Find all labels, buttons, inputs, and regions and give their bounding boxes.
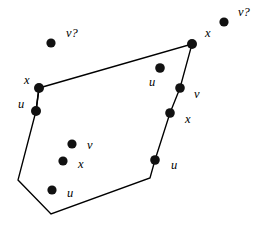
point-dot-p11[interactable]	[58, 156, 67, 165]
point-label-p8: x	[184, 112, 191, 126]
convex-region-outline	[18, 44, 192, 214]
point-dot-p2[interactable]	[219, 17, 228, 26]
point-dot-p7[interactable]	[175, 83, 185, 93]
point-dot-p10[interactable]	[67, 139, 76, 148]
point-dot-p3[interactable]	[187, 39, 197, 49]
point-label-p12: u	[67, 186, 73, 200]
point-dot-p12[interactable]	[47, 185, 56, 194]
point-dot-p9[interactable]	[150, 155, 160, 165]
polygon-group	[18, 44, 192, 214]
point-dot-p1[interactable]	[46, 38, 55, 47]
point-label-p1: v?	[66, 26, 79, 40]
point-dot-group	[31, 17, 229, 194]
point-label-p10: v	[87, 138, 93, 152]
diagram-canvas: v?v?xxuuvxuvxu	[0, 0, 263, 225]
point-label-p2: v?	[238, 5, 251, 19]
point-label-p7: v	[194, 87, 200, 101]
point-label-p3: x	[204, 26, 211, 40]
point-dot-p6[interactable]	[155, 63, 165, 73]
point-label-group: v?v?xxuuvxuvxu	[18, 5, 251, 200]
point-dot-p8[interactable]	[165, 108, 175, 118]
point-dot-p4[interactable]	[34, 83, 44, 93]
point-label-p9: u	[171, 158, 177, 172]
point-label-p11: x	[77, 157, 84, 171]
point-dot-p5[interactable]	[31, 106, 41, 116]
point-label-p5: u	[18, 97, 24, 111]
point-label-p6: u	[149, 75, 155, 89]
point-set-polygon-figure: v?v?xxuuvxuvxu	[0, 0, 263, 225]
point-label-p4: x	[23, 73, 30, 87]
